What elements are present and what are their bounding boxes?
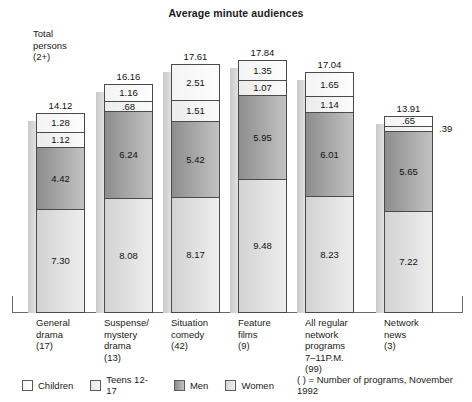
legend-swatch-men [174, 380, 185, 391]
segment-value-label: 1.07 [253, 83, 272, 93]
segment-value-label: 2.51 [186, 78, 205, 88]
bar-total-label: 16.16 [105, 71, 152, 85]
segment-value-label: 1.28 [51, 118, 70, 128]
bar-segment-teens-12-17[interactable]: 1.12 [37, 132, 84, 148]
segment-value-label: 9.48 [253, 241, 272, 251]
chart-figure: Average minute audiences Total persons (… [0, 0, 472, 402]
segment-value-label: 7.22 [399, 257, 418, 267]
legend-swatch-teens [90, 380, 101, 391]
axis-tick [12, 296, 13, 313]
legend-items: ChildrenTeens 12-17MenWomen( ) = Number … [22, 374, 472, 396]
category-label: General drama (17) [36, 317, 70, 352]
bar-segment-teens-12-17[interactable]: 1.14 [306, 96, 353, 112]
segment-value-label: 1.51 [186, 106, 205, 116]
bar-group: 17.841.351.075.959.48 [224, 22, 290, 313]
segment-value-label: .65 [402, 116, 415, 126]
segment-value-label: 8.23 [320, 250, 339, 260]
bar-segment-children[interactable]: 1.35 [239, 61, 286, 80]
bar-total-label: 17.61 [172, 51, 219, 65]
stacked-bar[interactable]: 17.041.651.146.018.23 [305, 72, 354, 313]
legend-swatch-women [225, 380, 236, 391]
category-label: Situation comedy (42) [171, 317, 208, 352]
legend-label: Men [190, 380, 208, 391]
bar-segment-men[interactable]: 5.65 [385, 131, 432, 210]
category-label: Network news (3) [384, 317, 419, 352]
legend-item-children[interactable]: Children [22, 380, 73, 391]
stacked-bar[interactable]: 16.161.16.686.248.08 [104, 84, 153, 313]
category-label: Feature films (9) [238, 317, 271, 352]
legend-item-women[interactable]: Women [225, 380, 274, 391]
segment-value-label: 1.14 [320, 100, 339, 110]
bar-segment-men[interactable]: 6.24 [105, 111, 152, 199]
legend-item-teens[interactable]: Teens 12-17 [90, 374, 157, 396]
bar-segment-children[interactable]: 1.65 [306, 73, 353, 96]
bar-segment-children[interactable]: .65 [385, 117, 432, 126]
bar-group: 14.121.281.124.427.30 [22, 22, 88, 313]
bar-segment-children[interactable]: 1.28 [37, 114, 84, 132]
segment-value-label: 5.95 [253, 133, 272, 143]
bar-segment-women[interactable]: 7.30 [37, 209, 84, 312]
legend-item-men[interactable]: Men [174, 380, 208, 391]
axis-tick [462, 296, 463, 313]
segment-value-label: 5.42 [186, 155, 205, 165]
category-label: All regular network programs 7–11P.M. (9… [305, 317, 348, 375]
segment-value-label: 6.24 [119, 150, 138, 160]
bar-segment-men[interactable]: 5.42 [172, 121, 219, 197]
bar-group: 17.612.511.515.428.17 [157, 22, 223, 313]
bar-segment-women[interactable]: 7.22 [385, 211, 432, 312]
bar-group: 16.161.16.686.248.08 [90, 22, 156, 313]
bar-group: 17.041.651.146.018.23 [291, 22, 357, 313]
stacked-bar[interactable]: 14.121.281.124.427.30 [36, 113, 85, 313]
legend-label: Women [241, 380, 274, 391]
segment-value-label: 8.08 [119, 251, 138, 261]
segment-value-label: 7.30 [51, 256, 70, 266]
segment-value-label: 1.16 [119, 88, 138, 98]
bar-segment-women[interactable]: 9.48 [239, 179, 286, 312]
bar-group: 13.91.65.395.657.22 [370, 22, 436, 313]
segment-value-label-external: .39 [439, 123, 452, 134]
segment-value-label: 5.65 [399, 167, 418, 177]
bar-segment-children[interactable]: 1.16 [105, 85, 152, 101]
bar-segment-men[interactable]: 6.01 [306, 112, 353, 196]
bar-segment-teens-12-17[interactable]: 1.51 [172, 100, 219, 121]
bar-total-label: 14.12 [37, 100, 84, 114]
legend-note: ( ) = Number of programs, November 1992 [297, 374, 472, 396]
bar-segment-women[interactable]: 8.17 [172, 197, 219, 312]
bar-segment-men[interactable]: 4.42 [37, 147, 84, 209]
segment-value-label: 1.65 [320, 80, 339, 90]
segment-value-label: 4.42 [51, 174, 70, 184]
plot-area: 14.121.281.124.427.3016.161.16.686.248.0… [0, 22, 472, 313]
page-title: Average minute audiences [0, 7, 472, 19]
stacked-bar[interactable]: 13.91.65.395.657.22 [384, 116, 433, 313]
segment-value-label: 8.17 [186, 250, 205, 260]
bar-segment-teens-12-17[interactable]: .68 [105, 101, 152, 111]
bar-total-label: 17.04 [306, 59, 353, 73]
segment-value-label: 6.01 [320, 150, 339, 160]
segment-value-label: 1.35 [253, 66, 272, 76]
bar-segment-women[interactable]: 8.08 [105, 198, 152, 312]
legend-swatch-children [22, 380, 33, 391]
legend-label: Children [38, 380, 73, 391]
stacked-bar[interactable]: 17.612.511.515.428.17 [171, 64, 220, 313]
bar-total-label: 17.84 [239, 47, 286, 61]
bar-segment-women[interactable]: 8.23 [306, 196, 353, 312]
stacked-bar[interactable]: 17.841.351.075.959.48 [238, 60, 287, 313]
legend-label: Teens 12-17 [106, 374, 157, 396]
bar-segment-teens-12-17[interactable]: 1.07 [239, 80, 286, 95]
bar-segment-children[interactable]: 2.51 [172, 65, 219, 100]
segment-value-label: 1.12 [51, 135, 70, 145]
bar-segment-men[interactable]: 5.95 [239, 95, 286, 179]
chart-legend: ChildrenTeens 12-17MenWomen( ) = Number … [0, 372, 472, 394]
category-label: Suspense/ mystery drama (13) [104, 317, 149, 363]
